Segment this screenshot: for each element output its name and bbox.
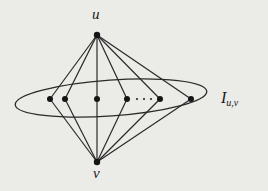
vertex-inner bbox=[188, 96, 194, 102]
edge-u-w6 bbox=[97, 35, 191, 99]
vertices bbox=[47, 32, 194, 165]
label-u: u bbox=[92, 7, 100, 22]
ellipsis-dots bbox=[136, 98, 152, 100]
edge-v-w2 bbox=[65, 99, 97, 162]
edge-v-w1 bbox=[50, 99, 97, 162]
edge-v-w5 bbox=[97, 99, 160, 162]
ellipsis-dot bbox=[150, 98, 152, 100]
vertex-inner bbox=[94, 96, 100, 102]
independent-set-ellipse bbox=[14, 73, 208, 122]
label-v: v bbox=[93, 166, 100, 181]
label-independent-set: Iu,v bbox=[221, 90, 238, 108]
vertex-inner bbox=[62, 96, 68, 102]
vertex-inner bbox=[47, 96, 53, 102]
edge-u-w5 bbox=[97, 35, 160, 99]
vertex-u bbox=[94, 32, 100, 38]
vertex-inner bbox=[124, 96, 130, 102]
ellipsis-dot bbox=[136, 98, 138, 100]
ellipsis-dot bbox=[143, 98, 145, 100]
edge-v-w6 bbox=[97, 99, 191, 162]
edges bbox=[50, 35, 191, 162]
edge-u-w2 bbox=[65, 35, 97, 99]
label-set-subscript: u,v bbox=[226, 97, 238, 108]
vertex-inner bbox=[157, 96, 163, 102]
edge-u-w1 bbox=[50, 35, 97, 99]
